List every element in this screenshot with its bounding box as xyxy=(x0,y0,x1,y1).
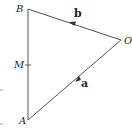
vector-label-a: a xyxy=(81,77,88,90)
vector-label-b: b xyxy=(74,7,82,20)
point-label-o: O xyxy=(124,35,132,46)
edge-o-a xyxy=(28,40,121,120)
point-label-b: B xyxy=(15,3,23,14)
point-label-a: A xyxy=(18,115,26,126)
arrow-b-icon xyxy=(69,22,76,27)
point-label-m: M xyxy=(13,59,25,70)
vector-diagram: B O A M b a xyxy=(0,0,132,132)
